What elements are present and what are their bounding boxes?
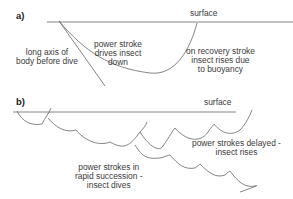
- surface-label-a: surface: [190, 9, 217, 18]
- recovery-stroke-label: on recovery stroke insect rises due to b…: [186, 47, 255, 74]
- surface-label-b: surface: [204, 98, 231, 107]
- delayed-strokes-label: power strokes delayed - insect rises: [192, 139, 281, 157]
- rapid-strokes-label: power strokes in rapid succession - inse…: [75, 163, 143, 190]
- panel-a-label: a): [16, 10, 24, 21]
- diagram-canvas: [0, 0, 293, 199]
- panel-b-label: b): [16, 96, 25, 107]
- body-axis-label: long axis of body before dive: [16, 48, 78, 66]
- power-stroke-label: power stroke drives insect down: [94, 40, 142, 67]
